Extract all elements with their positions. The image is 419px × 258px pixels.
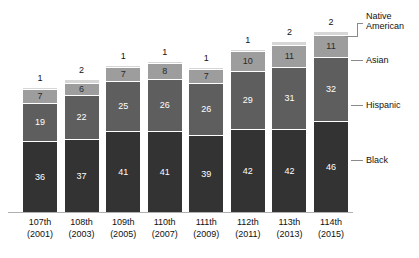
segment-value: 22 bbox=[77, 113, 87, 122]
tick-congress: 114th bbox=[320, 217, 342, 227]
segment-value: 31 bbox=[284, 94, 294, 103]
segment-value: 46 bbox=[326, 163, 336, 172]
x-axis-line bbox=[8, 212, 353, 213]
segment-value: 26 bbox=[201, 105, 211, 114]
bar-110th[interactable]: 182641 bbox=[148, 61, 182, 213]
segment-hispanic-110th: 26 bbox=[148, 79, 182, 131]
segment-asian-114th: 11 bbox=[314, 35, 348, 57]
segment-value: 42 bbox=[243, 167, 253, 176]
legend-label-native-american: Native American bbox=[366, 11, 404, 31]
legend-leader-hispanic bbox=[351, 105, 363, 106]
tick-congress: 113th bbox=[278, 217, 300, 227]
segment-asian-111th: 7 bbox=[189, 69, 223, 83]
segment-hispanic-112th: 29 bbox=[231, 71, 265, 129]
bar-111th[interactable]: 172639 bbox=[189, 67, 223, 213]
tick-congress: 111th bbox=[196, 217, 217, 227]
segment-asian-110th: 8 bbox=[148, 63, 182, 79]
segment-asian-107th: 7 bbox=[23, 89, 57, 103]
segment-black-112th: 42 bbox=[231, 129, 265, 213]
tick-congress: 107th bbox=[29, 217, 52, 227]
bar-top-value-107th: 1 bbox=[23, 73, 57, 83]
bar-top-value-108th: 2 bbox=[65, 65, 99, 75]
tick-congress: 109th bbox=[112, 217, 135, 227]
segment-hispanic-107th: 19 bbox=[23, 103, 57, 141]
bar-top-value-113th: 2 bbox=[272, 27, 306, 37]
stacked-bar-chart: 1719362622371725411826411726391102942211… bbox=[0, 0, 419, 258]
segment-hispanic-114th: 32 bbox=[314, 57, 348, 121]
tick-congress: 112th bbox=[237, 217, 259, 227]
segment-value: 19 bbox=[35, 118, 45, 127]
segment-black-107th: 36 bbox=[23, 141, 57, 213]
segment-value: 26 bbox=[160, 101, 170, 110]
bar-top-value-110th: 1 bbox=[148, 47, 182, 57]
segment-value: 10 bbox=[243, 57, 253, 66]
segment-value: 11 bbox=[326, 42, 335, 51]
segment-hispanic-113th: 31 bbox=[272, 67, 306, 129]
segment-value: 41 bbox=[160, 168, 170, 177]
bar-top-value-114th: 2 bbox=[314, 17, 348, 27]
segment-hispanic-109th: 25 bbox=[106, 81, 140, 131]
segment-black-108th: 37 bbox=[65, 139, 99, 213]
segment-value: 25 bbox=[118, 102, 128, 111]
segment-value: 32 bbox=[326, 85, 336, 94]
legend-leader-native-v bbox=[357, 23, 358, 37]
segment-value: 7 bbox=[204, 72, 209, 81]
bar-114th[interactable]: 2113246 bbox=[314, 31, 348, 213]
segment-value: 7 bbox=[37, 92, 42, 101]
legend-leader-asian bbox=[351, 60, 363, 61]
bar-112th[interactable]: 1102942 bbox=[231, 49, 265, 213]
tick-label-114th: 114th(2015) bbox=[307, 216, 355, 240]
segment-asian-109th: 7 bbox=[106, 67, 140, 81]
bar-109th[interactable]: 172541 bbox=[106, 65, 140, 213]
bar-top-value-111th: 1 bbox=[189, 53, 223, 63]
legend-label-hispanic: Hispanic bbox=[366, 100, 401, 110]
tick-congress: 108th bbox=[70, 217, 93, 227]
bar-top-value-109th: 1 bbox=[106, 51, 140, 61]
segment-value: 11 bbox=[285, 52, 294, 61]
segment-asian-112th: 10 bbox=[231, 51, 265, 71]
segment-value: 7 bbox=[121, 70, 126, 79]
legend-leader-black bbox=[351, 160, 363, 161]
segment-value: 41 bbox=[118, 168, 128, 177]
segment-hispanic-108th: 22 bbox=[65, 95, 99, 139]
segment-black-111th: 39 bbox=[189, 135, 223, 213]
legend-leader-native-h2 bbox=[357, 23, 363, 24]
segment-value: 37 bbox=[77, 172, 87, 181]
bar-107th[interactable]: 171936 bbox=[23, 87, 57, 213]
segment-asian-113th: 11 bbox=[272, 45, 306, 67]
segment-hispanic-111th: 26 bbox=[189, 83, 223, 135]
bar-108th[interactable]: 262237 bbox=[65, 79, 99, 213]
legend-leader-native-h1 bbox=[345, 36, 357, 37]
segment-value: 29 bbox=[243, 96, 253, 105]
tick-year: (2015) bbox=[307, 228, 355, 240]
segment-black-110th: 41 bbox=[148, 131, 182, 213]
segment-value: 42 bbox=[284, 167, 294, 176]
segment-value: 8 bbox=[162, 67, 167, 76]
segment-asian-108th: 6 bbox=[65, 83, 99, 95]
segment-value: 39 bbox=[201, 170, 211, 179]
legend-label-black: Black bbox=[366, 155, 388, 165]
tick-congress: 110th bbox=[154, 217, 176, 227]
segment-value: 36 bbox=[35, 173, 45, 182]
bar-113th[interactable]: 2113142 bbox=[272, 41, 306, 213]
segment-black-109th: 41 bbox=[106, 131, 140, 213]
legend-label-asian: Asian bbox=[366, 55, 389, 65]
segment-black-114th: 46 bbox=[314, 121, 348, 213]
bar-top-value-112th: 1 bbox=[231, 35, 265, 45]
segment-black-113th: 42 bbox=[272, 129, 306, 213]
segment-value: 6 bbox=[79, 85, 84, 94]
